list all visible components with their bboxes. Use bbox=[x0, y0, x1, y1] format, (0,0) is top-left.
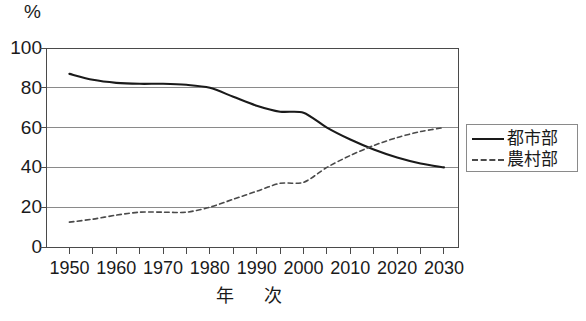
legend-solid-line-icon bbox=[471, 133, 505, 145]
legend-label-urban: 都市部 bbox=[507, 130, 558, 147]
series-line-rural bbox=[69, 128, 444, 223]
plot-frame bbox=[46, 48, 458, 247]
legend-item-rural: 農村部 bbox=[471, 149, 573, 170]
legend-label-rural: 農村部 bbox=[507, 151, 558, 168]
x-axis-title: 年 次 bbox=[46, 287, 458, 305]
chart-figure: % 020406080100 1950196019701980199020002… bbox=[0, 0, 586, 321]
legend-item-urban: 都市部 bbox=[471, 128, 573, 149]
chart-legend: 都市部 農村部 bbox=[466, 124, 578, 172]
legend-dashed-line-icon bbox=[471, 154, 505, 166]
